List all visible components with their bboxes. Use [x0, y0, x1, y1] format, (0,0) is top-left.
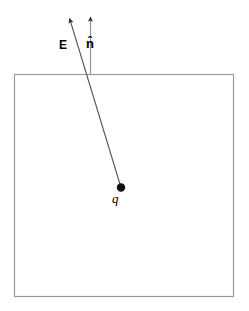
physics-diagram-gauss-law: E n̂ q: [0, 0, 249, 311]
unit-normal-label: n̂: [86, 37, 94, 50]
electric-field-label: E: [59, 39, 67, 51]
diagram-canvas: [0, 0, 249, 311]
charge-label: q: [112, 192, 119, 205]
electric-field-vector: [70, 19, 121, 188]
